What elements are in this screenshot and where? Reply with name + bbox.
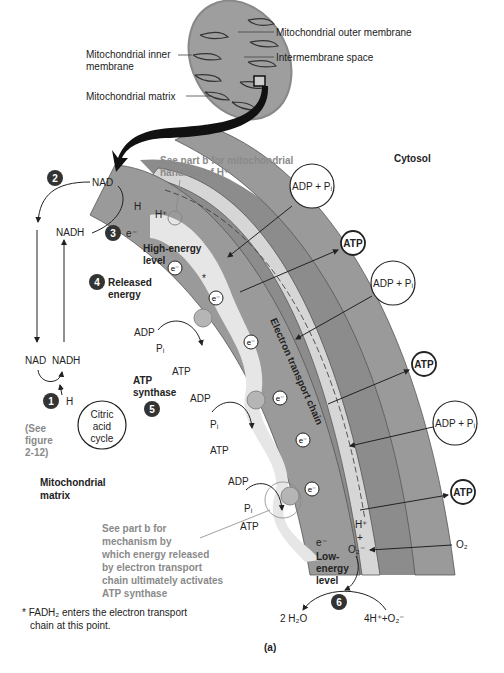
see-fig-2: figure (25, 435, 53, 446)
note-mech-1: See part b for (102, 523, 167, 534)
svg-text:ATP: ATP (240, 521, 259, 532)
svg-text:e⁻: e⁻ (308, 485, 316, 494)
citric-acid-cycle: Citric acid cycle (78, 401, 126, 449)
reactants: 4H⁺+O₂⁻ (364, 613, 404, 624)
svg-text:ADP: ADP (190, 393, 211, 404)
low-energy-1: Low- (316, 551, 339, 562)
high-energy-2: level (143, 255, 165, 266)
step-badge-5: 5 (144, 401, 160, 417)
water-product: 2 H₂O (280, 613, 307, 624)
note-mech-4: by electron transport (102, 562, 203, 573)
low-energy-3: level (316, 575, 338, 586)
svg-text:1: 1 (48, 396, 54, 407)
footnote-fadh2-2: chain at this point. (30, 620, 111, 631)
nadh-bottom: NADH (52, 355, 80, 366)
h-plus-final: H⁺ (355, 519, 367, 530)
o2-minus: O₂⁻ (348, 544, 365, 555)
atp-synthase-2: synthase (133, 387, 177, 398)
label-matrix-mito: Mitochondrial matrix (86, 91, 175, 102)
svg-text:ADP + Pᵢ: ADP + Pᵢ (292, 181, 332, 192)
svg-text:2: 2 (52, 173, 58, 184)
svg-text:ADP: ADP (228, 476, 249, 487)
plus-sign: + (357, 532, 363, 543)
note-mech-2: mechanism by (102, 536, 172, 547)
e-minus-label: e⁻ (126, 228, 137, 239)
h-label: H (134, 201, 141, 212)
nadh-top: NADH (56, 227, 84, 238)
svg-text:e⁻: e⁻ (276, 394, 284, 403)
step-badge-4: 4 (89, 274, 105, 290)
see-fig-3: 2-12) (25, 447, 48, 458)
svg-text:e⁻: e⁻ (247, 338, 255, 347)
fadh2-asterisk: * (202, 273, 206, 284)
svg-text:cycle: cycle (91, 433, 114, 444)
released-energy-2: energy (108, 289, 141, 300)
label-inner-membrane-2: membrane (86, 61, 134, 72)
svg-text:e⁻: e⁻ (212, 294, 220, 303)
o2-in: O₂ (456, 539, 468, 550)
nad-top: NAD (92, 177, 113, 188)
svg-text:ADP + Pᵢ: ADP + Pᵢ (435, 418, 475, 429)
note-h-handling-2: handling of H⁺ (160, 167, 229, 178)
high-energy-1: High-energy (143, 243, 202, 254)
step1-h: H (66, 396, 73, 407)
svg-text:3: 3 (110, 228, 116, 239)
svg-text:Pᵢ: Pᵢ (244, 503, 253, 514)
e-minus-final: e⁻ (316, 537, 327, 548)
label-intermembrane-space: Intermembrane space (276, 52, 374, 63)
svg-text:e⁻: e⁻ (299, 436, 307, 445)
note-mech-5: chain ultimately activates (102, 575, 224, 586)
svg-text:acid: acid (93, 421, 111, 432)
step-badge-6: 6 (331, 594, 347, 610)
panel-label: (a) (264, 642, 276, 653)
note-mech-3: which energy released (101, 549, 209, 560)
svg-text:Pᵢ: Pᵢ (156, 343, 165, 354)
released-energy-1: Released (108, 277, 152, 288)
svg-text:5: 5 (149, 404, 155, 415)
see-fig-1: (See (25, 423, 47, 434)
svg-text:ATP: ATP (172, 366, 191, 377)
note-h-handling-1: See part b for mitochondrial (160, 155, 294, 166)
region-cytosol: Cytosol (394, 153, 431, 164)
step-badge-3: 3 (105, 225, 121, 241)
mitochondria-etc-diagram: Mitochondrial outer membrane Intermembra… (0, 0, 504, 673)
region-matrix-1: Mitochondrial (40, 477, 106, 488)
step-badge-2: 2 (47, 170, 63, 186)
svg-text:ATP: ATP (414, 359, 434, 370)
nad-bottom: NAD (25, 355, 46, 366)
svg-text:ATP: ATP (343, 238, 363, 249)
footnote-fadh2-1: * FADH₂ enters the electron transport (22, 607, 187, 618)
membrane-band (90, 125, 455, 575)
svg-text:e⁻: e⁻ (171, 264, 179, 273)
note-mech-6: ATP synthase (102, 588, 168, 599)
synthase-site-1: ADP Pᵢ ATP (134, 309, 212, 377)
step-badge-1: 1 (43, 393, 59, 409)
svg-text:Citric: Citric (91, 409, 114, 420)
svg-text:6: 6 (336, 597, 342, 608)
region-matrix-2: matrix (40, 490, 70, 501)
svg-text:4: 4 (94, 277, 100, 288)
low-energy-2: energy (316, 563, 349, 574)
zoom-region-marker (254, 76, 265, 86)
label-outer-membrane: Mitochondrial outer membrane (276, 27, 412, 38)
svg-text:ADP + Pᵢ: ADP + Pᵢ (373, 278, 413, 289)
svg-text:Pᵢ: Pᵢ (210, 419, 219, 430)
svg-text:ATP: ATP (210, 445, 229, 456)
svg-text:ADP: ADP (134, 327, 155, 338)
h-plus-label: H⁺ (155, 209, 167, 220)
svg-text:ATP: ATP (453, 487, 473, 498)
label-inner-membrane-1: Mitochondrial inner (86, 49, 171, 60)
atp-synthase-1: ATP (133, 375, 153, 386)
